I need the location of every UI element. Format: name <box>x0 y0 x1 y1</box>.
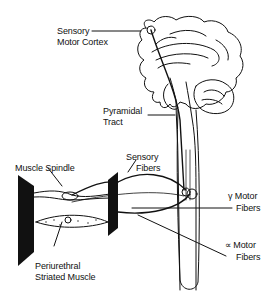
neural-pathway-diagram: Sensory Motor Cortex Pyramidal Tract Mus… <box>0 0 279 293</box>
label-alpha-motor-fibers-1: ∝ Motor <box>225 240 256 250</box>
label-gamma-motor-fibers-2: Fibers <box>236 203 260 213</box>
label-alpha-motor-fibers-2: Fibers <box>236 252 260 262</box>
label-sensory-fibers-2: Fibers <box>136 163 160 173</box>
right-plate <box>108 172 118 236</box>
cerebellum <box>194 80 234 114</box>
label-periurethral-2: Striated Muscle <box>35 272 96 282</box>
striated-muscle <box>36 215 108 227</box>
left-plate <box>18 175 34 266</box>
label-muscle-spindle: Muscle Spindle <box>15 163 75 173</box>
label-gamma-motor-fibers-1: γ Motor <box>228 191 257 201</box>
label-pyramidal-tract-1: Pyramidal <box>103 106 142 116</box>
label-pyramidal-tract-2: Tract <box>103 117 123 127</box>
label-sensory-motor-cortex-1: Sensory <box>57 26 89 36</box>
label-periurethral-1: Periurethral <box>35 261 80 271</box>
label-sensory-fibers-1: Sensory <box>126 152 158 162</box>
label-sensory-motor-cortex-2: Motor Cortex <box>57 37 108 47</box>
